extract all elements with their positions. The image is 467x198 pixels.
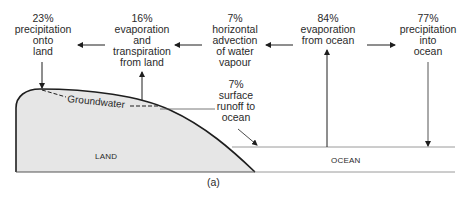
label-evap-ocean: 84% evaporation from ocean bbox=[293, 13, 363, 46]
label-line: from land bbox=[106, 57, 178, 68]
ocean-label: OCEAN bbox=[331, 156, 360, 165]
land-label: LAND bbox=[95, 152, 117, 161]
label-line: ocean bbox=[395, 46, 461, 57]
label-evap-land: 16% evaporation and transpiration from l… bbox=[106, 13, 178, 68]
label-precip-ocean: 77% precipitation into ocean bbox=[395, 13, 461, 57]
figure-caption: (a) bbox=[207, 176, 220, 188]
label-line: from ocean bbox=[293, 35, 363, 46]
label-precip-land: 23% precipitation onto land bbox=[8, 13, 78, 57]
arrow-runoff bbox=[238, 129, 257, 145]
label-runoff: 7% surface runoff to ocean bbox=[206, 79, 266, 123]
label-line: ocean bbox=[206, 112, 266, 123]
label-line: vapour bbox=[203, 57, 267, 68]
label-line: land bbox=[8, 46, 78, 57]
label-advection: 7% horizontal advection of water vapour bbox=[203, 13, 267, 68]
